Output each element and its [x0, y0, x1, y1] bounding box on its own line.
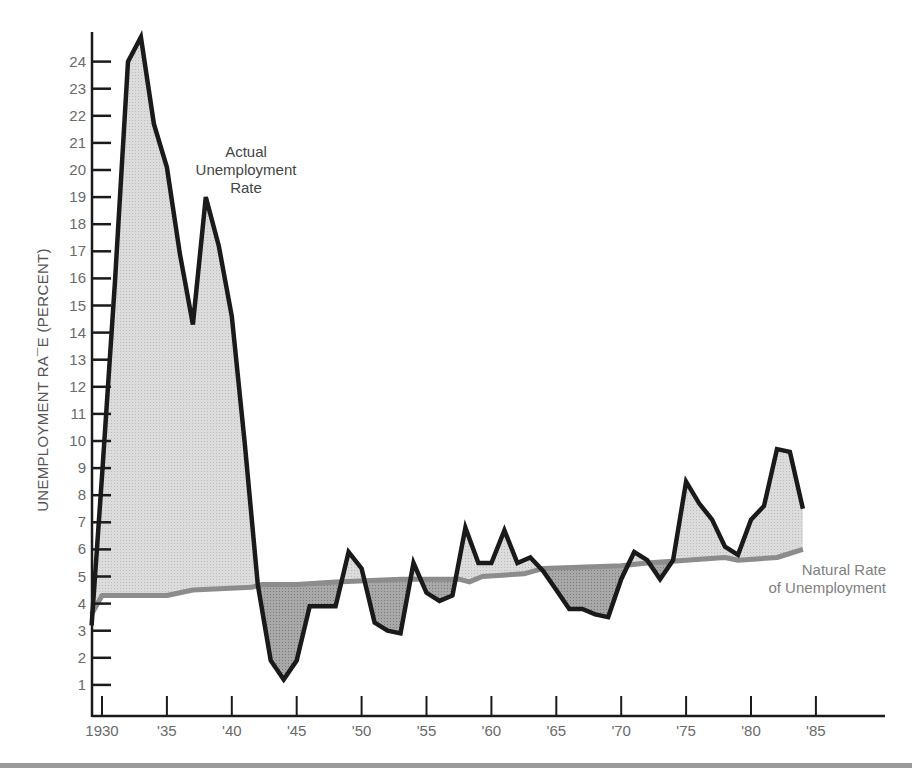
x-tick-label: '70 [611, 722, 631, 739]
y-tick-label: 23 [69, 80, 86, 97]
y-tick-label: 24 [69, 53, 86, 70]
x-tick-label: '35 [157, 722, 177, 739]
y-tick-label: 13 [69, 351, 86, 368]
y-axis-label: UNEMPLOYMENT RA¯E (PERCENT) [34, 248, 51, 512]
x-tick-label: '45 [287, 722, 307, 739]
y-tick-label: 1 [78, 676, 86, 693]
unemployment-chart: 123456789101112131415161718192021222324 … [0, 0, 912, 783]
y-tick-label: 20 [69, 161, 86, 178]
x-axis: 1930'35'40'45'50'55'60'65'70'75'80'85 [85, 696, 885, 739]
y-tick-label: 11 [70, 405, 86, 422]
x-tick-label: '65 [547, 722, 567, 739]
x-tick-label: '55 [417, 722, 437, 739]
y-tick-label: 9 [78, 459, 86, 476]
plot-area [92, 37, 803, 679]
x-tick-label: '40 [222, 722, 242, 739]
x-tick-label: 1930 [85, 722, 118, 739]
page-divider-rule [0, 763, 912, 768]
y-tick-label: 17 [69, 242, 86, 259]
y-tick-label: 10 [69, 432, 86, 449]
y-tick-label: 16 [69, 269, 86, 286]
y-tick-label: 7 [78, 513, 86, 530]
y-tick-label: 19 [69, 188, 86, 205]
natural-rate-label: Natural Rateof Unemployment [768, 561, 886, 596]
y-tick-label: 21 [69, 134, 86, 151]
y-tick-label: 18 [69, 215, 86, 232]
y-tick-label: 14 [69, 324, 86, 341]
y-tick-label: 15 [69, 297, 86, 314]
x-tick-label: '60 [482, 722, 502, 739]
y-tick-label: 2 [78, 649, 86, 666]
y-tick-label: 6 [78, 540, 86, 557]
y-tick-label: 12 [69, 378, 86, 395]
y-tick-label: 5 [78, 568, 86, 585]
x-tick-label: '85 [806, 722, 826, 739]
x-tick-label: '75 [676, 722, 696, 739]
actual-rate-label: ActualUnemploymentRate [196, 143, 298, 196]
x-tick-label: '50 [352, 722, 372, 739]
y-tick-label: 3 [78, 622, 86, 639]
y-tick-label: 8 [78, 486, 86, 503]
x-tick-label: '80 [741, 722, 761, 739]
y-tick-label: 4 [78, 595, 86, 612]
y-tick-label: 22 [69, 107, 86, 124]
